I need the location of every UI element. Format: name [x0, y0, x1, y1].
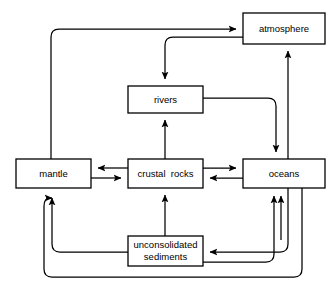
node-oceans[interactable]: oceans: [243, 159, 325, 188]
node-crustal-rocks[interactable]: crustal rocks: [128, 159, 203, 188]
node-mantle[interactable]: mantle: [16, 159, 91, 188]
crustal-rocks-label: crustal rocks: [138, 168, 194, 179]
unconsolidated-sediments-label-line2: sediments: [144, 251, 188, 262]
diagram-canvas: atmosphere rivers mantle crustal rocks o…: [0, 0, 332, 291]
rivers-label: rivers: [154, 94, 177, 105]
node-unconsolidated-sediments[interactable]: unconsolidated sediments: [128, 236, 203, 266]
node-rivers[interactable]: rivers: [128, 86, 203, 113]
edge-oceans-to-sediments: [210, 188, 288, 252]
edge-rivers-to-oceans: [203, 98, 276, 152]
edge-sediments-to-mantle: [52, 198, 128, 252]
unconsolidated-sediments-label-line1: unconsolidated: [134, 239, 198, 250]
node-layer: atmosphere rivers mantle crustal rocks o…: [16, 13, 325, 266]
oceans-label: oceans: [269, 168, 300, 179]
geochemical-cycle-diagram: atmosphere rivers mantle crustal rocks o…: [0, 0, 332, 291]
edge-atmosphere-to-rivers: [165, 37, 243, 79]
node-atmosphere[interactable]: atmosphere: [243, 13, 325, 44]
atmosphere-label: atmosphere: [259, 23, 309, 34]
mantle-label: mantle: [39, 168, 68, 179]
